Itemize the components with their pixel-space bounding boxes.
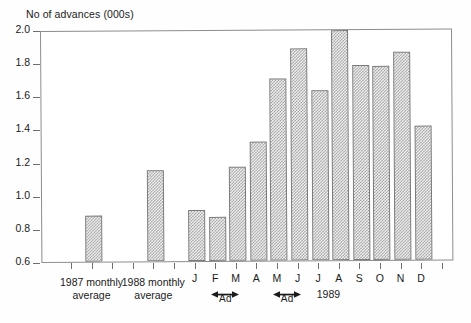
bar bbox=[209, 216, 226, 261]
x-axis-tick bbox=[153, 263, 154, 269]
y-axis-tick bbox=[33, 64, 40, 65]
y-axis-title: No of advances (000s) bbox=[26, 8, 134, 20]
x-axis-tick bbox=[298, 263, 299, 269]
x-axis-tick-label: 1987 monthlyaverage bbox=[60, 276, 123, 302]
x-axis-tick-label: J bbox=[192, 272, 197, 284]
x-axis-tick bbox=[380, 263, 381, 269]
bar bbox=[290, 49, 308, 261]
bar bbox=[270, 79, 288, 261]
bar bbox=[147, 170, 165, 261]
x-axis-tick-label: O bbox=[376, 272, 384, 284]
y-axis-tick bbox=[33, 97, 40, 98]
bar bbox=[249, 142, 267, 261]
x-axis-tick bbox=[174, 263, 175, 269]
x-axis-tick bbox=[71, 263, 72, 269]
x-axis-period-label: 1989 bbox=[317, 288, 340, 300]
x-axis-tick-label: J bbox=[315, 272, 320, 284]
y-axis-tick bbox=[33, 164, 40, 165]
x-axis-tick-label: J bbox=[295, 272, 300, 284]
bar bbox=[393, 51, 411, 260]
bar-series bbox=[41, 29, 452, 262]
x-axis-tick bbox=[339, 263, 340, 269]
x-axis-tick bbox=[195, 263, 196, 269]
x-axis-tick bbox=[442, 263, 443, 269]
x-axis-tick bbox=[133, 263, 134, 269]
x-axis-tick-label: A bbox=[335, 272, 342, 284]
y-axis-tick bbox=[33, 31, 40, 32]
y-axis-tick bbox=[33, 197, 40, 198]
x-axis-tick bbox=[421, 263, 422, 269]
annotation-ad-2: Ad bbox=[272, 285, 302, 304]
x-axis-tick bbox=[236, 263, 237, 269]
x-axis-tick bbox=[318, 263, 319, 269]
bar bbox=[352, 65, 370, 260]
x-axis-tick bbox=[92, 263, 93, 269]
x-axis-tick bbox=[401, 263, 402, 269]
x-axis-tick-label: F bbox=[212, 272, 218, 284]
bar bbox=[188, 210, 205, 261]
x-axis-tick bbox=[359, 263, 360, 269]
y-axis-tick-labels: 2.01.81.61.41.21.00.80.6 bbox=[0, 0, 30, 323]
x-axis-tick-label: M bbox=[231, 272, 240, 284]
bar bbox=[229, 167, 247, 261]
bar bbox=[85, 216, 102, 262]
plot-area bbox=[40, 28, 453, 263]
annotation-ad-1: Ad bbox=[210, 285, 240, 304]
bar bbox=[373, 66, 391, 260]
x-axis-tick-label: A bbox=[253, 272, 260, 284]
y-axis-tick bbox=[33, 230, 40, 231]
x-axis-tick bbox=[277, 263, 278, 269]
x-axis-tick bbox=[256, 263, 257, 269]
x-axis-tick-label: M bbox=[273, 272, 282, 284]
x-axis-tick-label: 1988 monthlyaverage bbox=[122, 276, 185, 302]
x-axis-tick-label: D bbox=[417, 272, 425, 284]
x-axis-tick bbox=[215, 263, 216, 269]
x-axis-tick bbox=[112, 263, 113, 269]
y-axis-tick bbox=[33, 263, 40, 264]
bar bbox=[414, 126, 432, 260]
x-axis-tick-label: N bbox=[397, 272, 405, 284]
x-axis-tick-label: S bbox=[356, 272, 363, 284]
bar bbox=[331, 30, 349, 260]
bar bbox=[311, 90, 329, 260]
y-axis-tick bbox=[33, 130, 40, 131]
bar-chart-figure: No of advances (000s) 2.01.81.61.41.21.0… bbox=[0, 0, 471, 323]
